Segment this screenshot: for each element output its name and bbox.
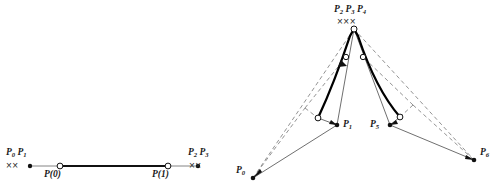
knot-xmarks-left-start: ××	[6, 161, 19, 171]
control-dot-p5	[388, 123, 393, 128]
dashed-polygon-p0-apex	[253, 29, 354, 178]
label-p6-text: P6	[480, 147, 489, 157]
control-dot-p6	[472, 158, 477, 163]
left-control-dot-p0p1	[28, 164, 32, 168]
open-circle-curve-end-right	[397, 114, 403, 120]
label-p5: P5	[370, 120, 379, 130]
knot-xmarks-left-end: ××	[189, 161, 202, 171]
label-p5-text: P5	[370, 119, 379, 129]
thick-curve-right-branch	[354, 29, 400, 117]
dashed-polygon-apex-p6	[354, 29, 474, 160]
thin-line-p1-apex	[337, 29, 354, 125]
figure-canvas	[0, 0, 501, 188]
label-p-of-0-text: P(0)	[44, 169, 61, 179]
right-panel-graphics	[251, 26, 477, 180]
label-p-of-1-text: P(1)	[152, 169, 169, 179]
label-apex-group: P2 P3 P4	[334, 5, 366, 15]
label-p0-p1-text: P0 P1	[6, 147, 27, 157]
label-p6: P6	[480, 148, 489, 158]
open-circle-mid-right	[360, 54, 365, 59]
label-p-of-1: P(1)	[152, 170, 169, 180]
label-p0-p1-group: P0 P1	[6, 148, 27, 158]
dashed-corner-right-inner	[363, 57, 413, 105]
label-p1: P1	[343, 120, 352, 130]
label-p2-p3-text: P2 P3	[188, 147, 209, 157]
control-dot-p1	[335, 123, 340, 128]
open-circle-curve-end-left	[315, 115, 321, 121]
knot-xmarks-apex: ×××	[337, 17, 356, 27]
thin-line-p0-p1	[253, 125, 337, 178]
control-dot-p0	[251, 176, 256, 181]
thin-line-p5-p6	[390, 125, 474, 160]
label-apex-group-text: P2 P3 P4	[334, 4, 366, 14]
label-p0-text: P0	[236, 165, 245, 175]
label-p1-text: P1	[343, 119, 352, 129]
label-p-of-0: P(0)	[44, 170, 61, 180]
figure-root: P0 P1 ×× P(0) P(1) P2 P3 ×× P2 P3 P4 ×××…	[0, 0, 501, 188]
label-p2-p3-group: P2 P3	[188, 148, 209, 158]
open-circle-mid-left	[343, 54, 348, 59]
label-p0: P0	[236, 166, 245, 176]
dashed-corner-right-p6	[413, 105, 474, 160]
dashed-p0-corner-left	[253, 108, 305, 178]
